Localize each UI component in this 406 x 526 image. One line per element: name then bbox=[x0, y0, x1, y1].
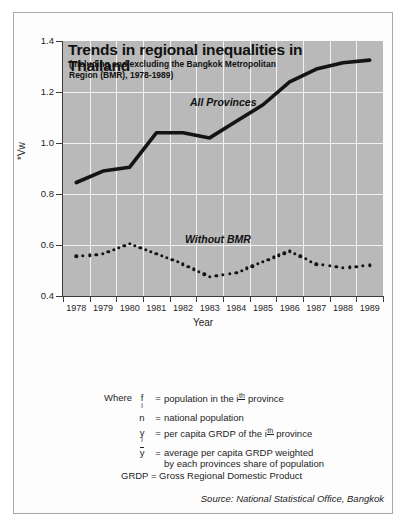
definition-equals: = bbox=[152, 427, 164, 447]
x-tick-label: 1983 bbox=[200, 304, 220, 313]
definition-symbol: n bbox=[132, 412, 152, 427]
y-tick-label: 0.6 bbox=[41, 240, 54, 250]
y-tick-label: 1.2 bbox=[41, 87, 54, 97]
definition-symbol: yi bbox=[132, 427, 152, 447]
x-tick-label: 1978 bbox=[66, 304, 86, 313]
definition-text: national population bbox=[164, 412, 324, 427]
y-tick-mark bbox=[56, 92, 63, 93]
x-tick-mark bbox=[196, 296, 197, 302]
x-tick-mark bbox=[143, 296, 144, 302]
x-tick-mark bbox=[116, 296, 117, 302]
y-tick-label: 1.4 bbox=[41, 36, 54, 46]
x-tick-label: 1980 bbox=[120, 304, 140, 313]
definition-row: Wherefi=population in the ith province bbox=[88, 392, 324, 412]
x-tick-label: 1988 bbox=[333, 304, 353, 313]
where-label: Where bbox=[88, 392, 132, 412]
x-tick-mark bbox=[90, 296, 91, 302]
definition-text: per capita GRDP of the ith province bbox=[164, 427, 324, 447]
y-tick-label: 0.8 bbox=[41, 189, 54, 199]
y-tick-mark bbox=[56, 41, 63, 42]
x-tick-mark bbox=[303, 296, 304, 302]
x-tick-mark bbox=[330, 296, 331, 302]
definition-text: population in the ith province bbox=[164, 392, 324, 412]
x-tick-mark bbox=[356, 296, 357, 302]
y-axis-title: *Vw bbox=[16, 142, 27, 160]
x-tick-label: 1989 bbox=[360, 304, 380, 313]
x-tick-mark bbox=[223, 296, 224, 302]
x-tick-mark bbox=[383, 296, 384, 302]
y-tick-label: 0.4 bbox=[41, 291, 54, 301]
y-tick-mark bbox=[56, 143, 63, 144]
definition-spacer bbox=[88, 412, 132, 427]
x-tick-label: 1986 bbox=[280, 304, 300, 313]
chart: 1.41.21.00.80.60.4 197819791980198119821… bbox=[0, 0, 406, 330]
x-tick-mark bbox=[250, 296, 251, 302]
definition-row: yi=per capita GRDP of the ith province bbox=[88, 427, 324, 447]
series-label-all-provinces: All Provinces bbox=[190, 96, 257, 108]
grdp-note: GRDP = Gross Regional Domestic Product bbox=[121, 470, 302, 481]
chart-subtitle: (Including and excluding the Bangkok Met… bbox=[69, 59, 299, 80]
x-tick-label: 1982 bbox=[173, 304, 193, 313]
x-axis-title: Year bbox=[0, 317, 406, 328]
x-tick-label: 1984 bbox=[226, 304, 246, 313]
x-tick-label: 1981 bbox=[146, 304, 166, 313]
definitions-table: Wherefi=population in the ith provincen=… bbox=[88, 392, 324, 473]
series-label-without-bmr: Without BMR bbox=[185, 233, 251, 245]
y-tick-label: 1.0 bbox=[41, 138, 54, 148]
formula-block: *Vw= √ Σ i ( y i –y)2 fi bbox=[0, 333, 406, 393]
x-tick-mark bbox=[276, 296, 277, 302]
y-tick-mark bbox=[56, 194, 63, 195]
source-note: Source: National Statistical Office, Ban… bbox=[201, 493, 384, 504]
x-tick-mark bbox=[170, 296, 171, 302]
x-tick-label: 1979 bbox=[93, 304, 113, 313]
y-tick-mark bbox=[56, 245, 63, 246]
y-tick-mark bbox=[56, 296, 63, 297]
definitions-list: Wherefi=population in the ith provincen=… bbox=[88, 392, 324, 473]
y-axis-line bbox=[62, 41, 63, 297]
definition-symbol: fi bbox=[132, 392, 152, 412]
definition-spacer bbox=[88, 427, 132, 447]
definition-row: n=national population bbox=[88, 412, 324, 427]
figure-container: 1.41.21.00.80.60.4 197819791980198119821… bbox=[0, 0, 406, 526]
definition-equals: = bbox=[152, 392, 164, 412]
definition-equals: = bbox=[152, 412, 164, 427]
x-tick-mark bbox=[63, 296, 64, 302]
x-tick-label: 1987 bbox=[306, 304, 326, 313]
x-tick-label: 1985 bbox=[253, 304, 273, 313]
